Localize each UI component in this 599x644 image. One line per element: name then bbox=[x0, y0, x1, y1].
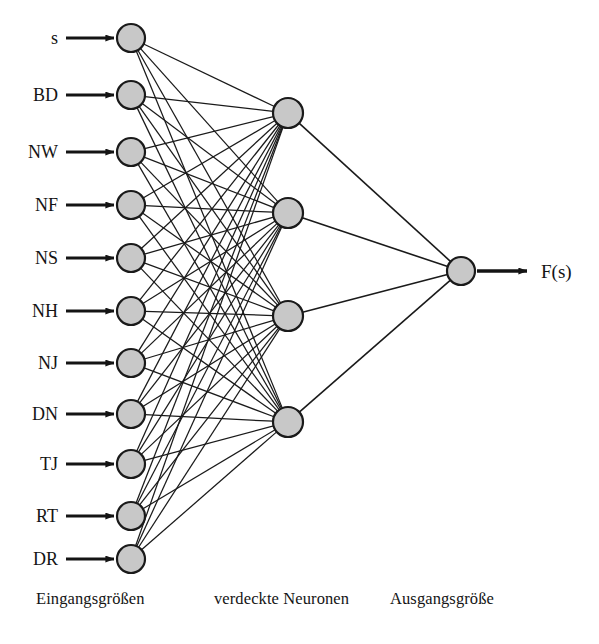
output-neuron-group bbox=[447, 257, 475, 285]
hidden-neuron-2 bbox=[273, 301, 303, 331]
input-label-dn: DN bbox=[32, 404, 58, 424]
edge-hidden-1-output-0 bbox=[302, 218, 448, 267]
input-neuron-7 bbox=[117, 400, 145, 428]
edge-hidden-3-output-0 bbox=[299, 280, 450, 412]
caption-input-layer: Eingangsgrößen bbox=[36, 589, 145, 609]
input-arrow-group bbox=[66, 38, 114, 559]
input-neuron-4 bbox=[117, 244, 145, 272]
input-label-tj: TJ bbox=[40, 454, 58, 474]
caption-hidden-layer: verdeckte Neuronen bbox=[214, 589, 349, 609]
hidden-neuron-3 bbox=[273, 407, 303, 437]
input-label-nj: NJ bbox=[38, 353, 58, 373]
edge-hidden-2-output-0 bbox=[303, 275, 448, 313]
input-label-ns: NS bbox=[35, 248, 58, 268]
input-neuron-5 bbox=[117, 297, 145, 325]
input-label-dr: DR bbox=[33, 549, 58, 569]
hidden-neuron-group bbox=[273, 98, 303, 437]
edges-hidden-to-output bbox=[299, 123, 451, 412]
edge-input-1-hidden-0 bbox=[145, 97, 273, 112]
edge-input-10-hidden-1 bbox=[137, 227, 282, 547]
edge-input-0-hidden-1 bbox=[140, 48, 278, 201]
input-neuron-6 bbox=[117, 349, 145, 377]
edges-input-to-hidden bbox=[136, 44, 283, 550]
input-label-nw: NW bbox=[28, 142, 58, 162]
hidden-neuron-0 bbox=[273, 98, 303, 128]
output-neuron-0 bbox=[447, 257, 475, 285]
edge-input-8-hidden-2 bbox=[141, 326, 277, 454]
input-neuron-8 bbox=[117, 450, 145, 478]
input-label-rt: RT bbox=[36, 506, 58, 526]
input-label-nf: NF bbox=[35, 195, 58, 215]
edge-input-4-hidden-1 bbox=[144, 217, 273, 254]
input-label-bd: BD bbox=[33, 85, 58, 105]
input-neuron-2 bbox=[117, 138, 145, 166]
edge-input-3-hidden-2 bbox=[142, 213, 275, 307]
caption-output-layer: Ausgangsgröße bbox=[390, 589, 494, 609]
input-label-group: sBDNWNFNSNHNJDNTJRTDR bbox=[28, 28, 58, 569]
network-graph: sBDNWNFNSNHNJDNTJRTDR F(s) bbox=[0, 0, 599, 644]
input-label-s: s bbox=[51, 28, 58, 48]
edge-input-10-hidden-2 bbox=[139, 329, 280, 548]
input-neuron-9 bbox=[117, 502, 145, 530]
output-label-fs: F(s) bbox=[541, 261, 572, 283]
input-label-nh: NH bbox=[32, 301, 58, 321]
input-neuron-0 bbox=[117, 24, 145, 52]
neural-network-diagram: sBDNWNFNSNHNJDNTJRTDR F(s) Eingangsgröße… bbox=[0, 0, 599, 644]
output-label-group: F(s) bbox=[541, 261, 572, 283]
input-neuron-10 bbox=[117, 545, 145, 573]
hidden-neuron-1 bbox=[273, 198, 303, 228]
edge-input-0-hidden-0 bbox=[144, 44, 275, 106]
input-neuron-1 bbox=[117, 81, 145, 109]
edge-hidden-0-output-0 bbox=[299, 123, 451, 261]
input-neuron-3 bbox=[117, 191, 145, 219]
